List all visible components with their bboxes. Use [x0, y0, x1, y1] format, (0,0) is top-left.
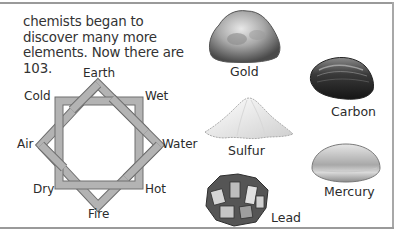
label-earth: Earth [83, 66, 115, 80]
label-dry: Dry [33, 182, 54, 196]
specimen-label-lead: Lead [271, 210, 301, 225]
lead-crystal-icon [202, 168, 274, 228]
textbook-page: chemists began to discover many more ele… [0, 0, 406, 237]
label-hot: Hot [145, 182, 166, 196]
sulfur-pile-icon [203, 96, 295, 142]
specimen-label-mercury: Mercury [324, 184, 375, 199]
carbon-lump-icon [307, 52, 377, 102]
label-water: Water [162, 137, 197, 151]
specimen-label-gold: Gold [230, 64, 259, 79]
gold-nugget-icon [205, 5, 285, 65]
specimen-label-carbon: Carbon [331, 104, 376, 119]
label-air: Air [17, 137, 33, 151]
label-wet: Wet [145, 89, 168, 103]
label-cold: Cold [24, 89, 51, 103]
mercury-drop-icon [309, 142, 383, 184]
specimen-label-sulfur: Sulfur [228, 143, 265, 158]
label-fire: Fire [88, 207, 109, 221]
